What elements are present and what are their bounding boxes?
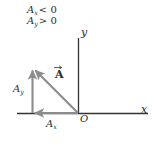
component-ax-label: Ax — [46, 119, 57, 130]
condition-ax-relation: < 0 — [38, 4, 57, 15]
component-ay-subscript: y — [20, 88, 24, 96]
x-axis-label: x — [141, 104, 147, 115]
condition-annotations: Ax< 0 Ay> 0 — [27, 4, 57, 26]
condition-ay-relation: > 0 — [38, 15, 57, 26]
vector-a-label: A — [55, 69, 64, 80]
condition-ax-negative: Ax< 0 — [27, 4, 57, 15]
vector-a-symbol-wrap: A — [55, 69, 64, 80]
vector-components-figure: Ax< 0 Ay> 0 y x O Ay Ax A — [0, 0, 154, 167]
component-ax-subscript: x — [53, 123, 57, 131]
condition-ay-positive: Ay> 0 — [27, 15, 57, 26]
component-ay-label: Ay — [13, 84, 24, 95]
y-axis-label: y — [81, 27, 87, 38]
vector-overbar-arrow-icon — [54, 65, 63, 69]
vector-a-glyph: A — [55, 68, 64, 81]
origin-label: O — [80, 114, 88, 124]
